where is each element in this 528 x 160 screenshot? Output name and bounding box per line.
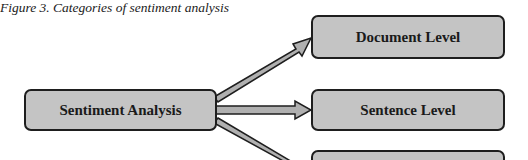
third-level-node: [311, 150, 505, 160]
document-level-node: Document Level: [311, 15, 505, 59]
arrow-to-document-level: [214, 38, 311, 102]
sentiment-analysis-node: Sentiment Analysis: [24, 89, 217, 131]
arrow-to-sentence-level: [216, 101, 311, 119]
node-label: Sentiment Analysis: [59, 102, 181, 119]
sentence-level-node: Sentence Level: [311, 89, 505, 131]
node-label: Document Level: [356, 29, 461, 46]
arrow-to-third-level: [214, 118, 311, 160]
node-label: Sentence Level: [360, 102, 455, 119]
